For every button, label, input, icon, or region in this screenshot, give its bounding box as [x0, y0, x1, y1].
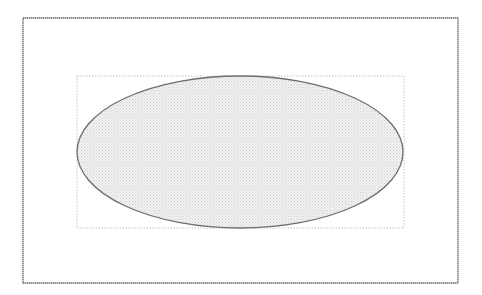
diagram-canvas — [0, 0, 482, 295]
ellipse-shape[interactable] — [77, 76, 403, 228]
